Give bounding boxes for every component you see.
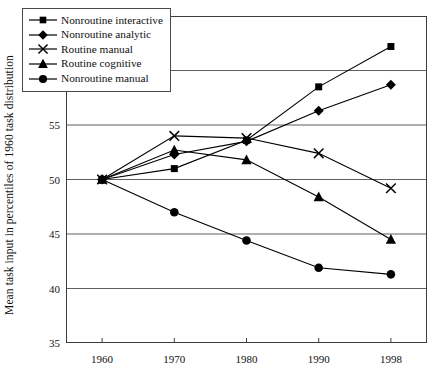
x-tick-label: 1998 — [380, 353, 402, 365]
data-point-marker — [386, 80, 396, 90]
legend-label: Routine manual — [61, 44, 133, 55]
legend-marker-diamond — [28, 28, 58, 42]
y-tick-label: 35 — [49, 337, 66, 349]
data-point-marker — [315, 83, 322, 90]
legend-item: Nonroutine manual — [28, 71, 163, 86]
legend-label: Nonroutine interactive — [61, 15, 163, 26]
data-point-marker — [171, 165, 178, 172]
y-tick-label: 55 — [49, 119, 66, 131]
data-point-marker — [387, 43, 394, 50]
x-tick-label: 1960 — [91, 353, 113, 365]
legend-item: Routine cognitive — [28, 57, 163, 72]
series-line — [102, 85, 391, 180]
series-line — [102, 180, 391, 275]
legend-item: Nonroutine interactive — [28, 13, 163, 28]
legend-label: Nonroutine manual — [61, 73, 149, 84]
legend: Nonroutine interactiveNonroutine analyti… — [22, 8, 171, 92]
x-tick-label: 1990 — [308, 353, 330, 365]
data-point-marker — [169, 145, 179, 155]
data-point-marker — [314, 192, 324, 202]
data-point-marker — [387, 270, 396, 279]
series-nonroutine-manual — [98, 175, 395, 278]
x-tick-label: 1980 — [236, 353, 258, 365]
y-tick-label: 45 — [49, 228, 66, 240]
data-point-marker — [314, 263, 323, 272]
legend-item: Nonroutine analytic — [28, 28, 163, 43]
legend-marker-cross — [28, 42, 58, 56]
legend-marker-triangle — [28, 57, 58, 71]
x-tick-label: 1970 — [163, 353, 185, 365]
legend-label: Routine cognitive — [61, 58, 142, 69]
legend-item: Routine manual — [28, 42, 163, 57]
data-point-marker — [314, 149, 324, 159]
legend-marker-square — [28, 13, 58, 27]
series-routine-cognitive — [97, 145, 396, 244]
data-point-marker — [40, 17, 47, 24]
data-point-marker — [38, 30, 48, 40]
data-point-marker — [39, 75, 47, 83]
data-point-marker — [314, 106, 324, 116]
chart-figure: Mean task input in percentiles of 1960 t… — [0, 0, 442, 370]
data-point-marker — [386, 234, 396, 244]
legend-marker-circle — [28, 72, 58, 86]
data-point-marker — [98, 175, 107, 184]
data-point-marker — [386, 183, 396, 193]
y-tick-label: 50 — [49, 174, 66, 186]
y-axis-label: Mean task input in percentiles of 1960 t… — [0, 0, 18, 370]
legend-label: Nonroutine analytic — [61, 29, 151, 40]
data-point-marker — [242, 236, 251, 245]
data-point-marker — [170, 208, 179, 217]
y-tick-label: 40 — [49, 283, 66, 295]
